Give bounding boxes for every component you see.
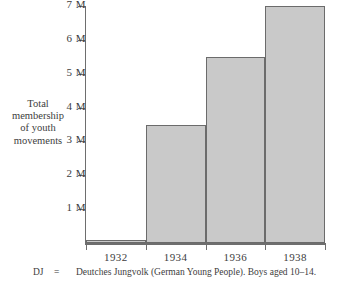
x-tick-label-1938: 1938 [265, 251, 325, 263]
x-tick-mark [265, 245, 266, 250]
bar-1938 [265, 6, 325, 243]
y-tick-label: 6 M [20, 32, 86, 44]
y-tick-label: 7 M [20, 0, 86, 10]
caption-key: DJ [33, 266, 44, 278]
x-tick-mark [86, 245, 87, 250]
caption-text: Deutches Jungvolk (German Young People).… [76, 266, 316, 278]
x-tick-mark [146, 245, 147, 250]
y-axis-title-line-2: membership [2, 110, 74, 122]
y-tick-label: 5 M [20, 66, 86, 78]
bar-1934 [146, 125, 206, 244]
caption-equals: = [54, 266, 59, 278]
bar-1936 [206, 57, 266, 243]
x-tick-label-1934: 1934 [146, 251, 206, 263]
x-tick-mark [325, 245, 326, 250]
x-tick-mark [206, 245, 207, 250]
bar-chart-figure: Total membership of youth movements 1 M2… [0, 0, 338, 285]
y-tick-label: 3 M [20, 133, 86, 145]
x-tick-label-1932: 1932 [86, 251, 146, 263]
bar-1932 [86, 240, 146, 243]
y-tick-label: 1 M [20, 201, 86, 213]
plot-area [86, 6, 325, 243]
y-tick-label: 2 M [20, 167, 86, 179]
x-tick-label-1936: 1936 [206, 251, 266, 263]
y-tick-label: 4 M [20, 100, 86, 112]
